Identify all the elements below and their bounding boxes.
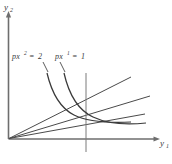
x-axis-label: y 1 xyxy=(159,138,169,149)
curve-label-px1-value: 1 xyxy=(81,52,85,61)
curve-label-px2: px 2 = 2 xyxy=(11,50,42,61)
ray-group xyxy=(9,77,150,139)
curve-label-px1-superscript: 1 xyxy=(67,50,70,56)
figure-container: y 2 y 1 px 2 = 2 px 1 xyxy=(0,0,172,164)
curve-label-px1: px 1 = 1 xyxy=(54,50,85,61)
y-axis-label: y 2 xyxy=(3,2,13,13)
leader-px1 xyxy=(60,62,65,72)
x-axis-label-subscript: 1 xyxy=(166,143,169,149)
plot-svg: y 2 y 1 px 2 = 2 px 1 xyxy=(0,0,172,164)
y-axis-label-subscript: 2 xyxy=(10,7,13,13)
curve-label-px1-base: px xyxy=(54,52,63,61)
curve-label-px2-value: 2 xyxy=(38,52,42,61)
curve-label-px2-superscript: 2 xyxy=(24,50,27,56)
y-axis xyxy=(6,11,11,139)
y-axis-label-base: y xyxy=(3,2,8,12)
curve-label-px2-equals: = xyxy=(29,52,35,61)
x-axis-label-base: y xyxy=(159,138,164,148)
curve-label-px2-base: px xyxy=(11,52,20,61)
curve-label-px1-equals: = xyxy=(72,52,78,61)
x-axis xyxy=(9,136,161,141)
leader-px2 xyxy=(43,62,48,72)
